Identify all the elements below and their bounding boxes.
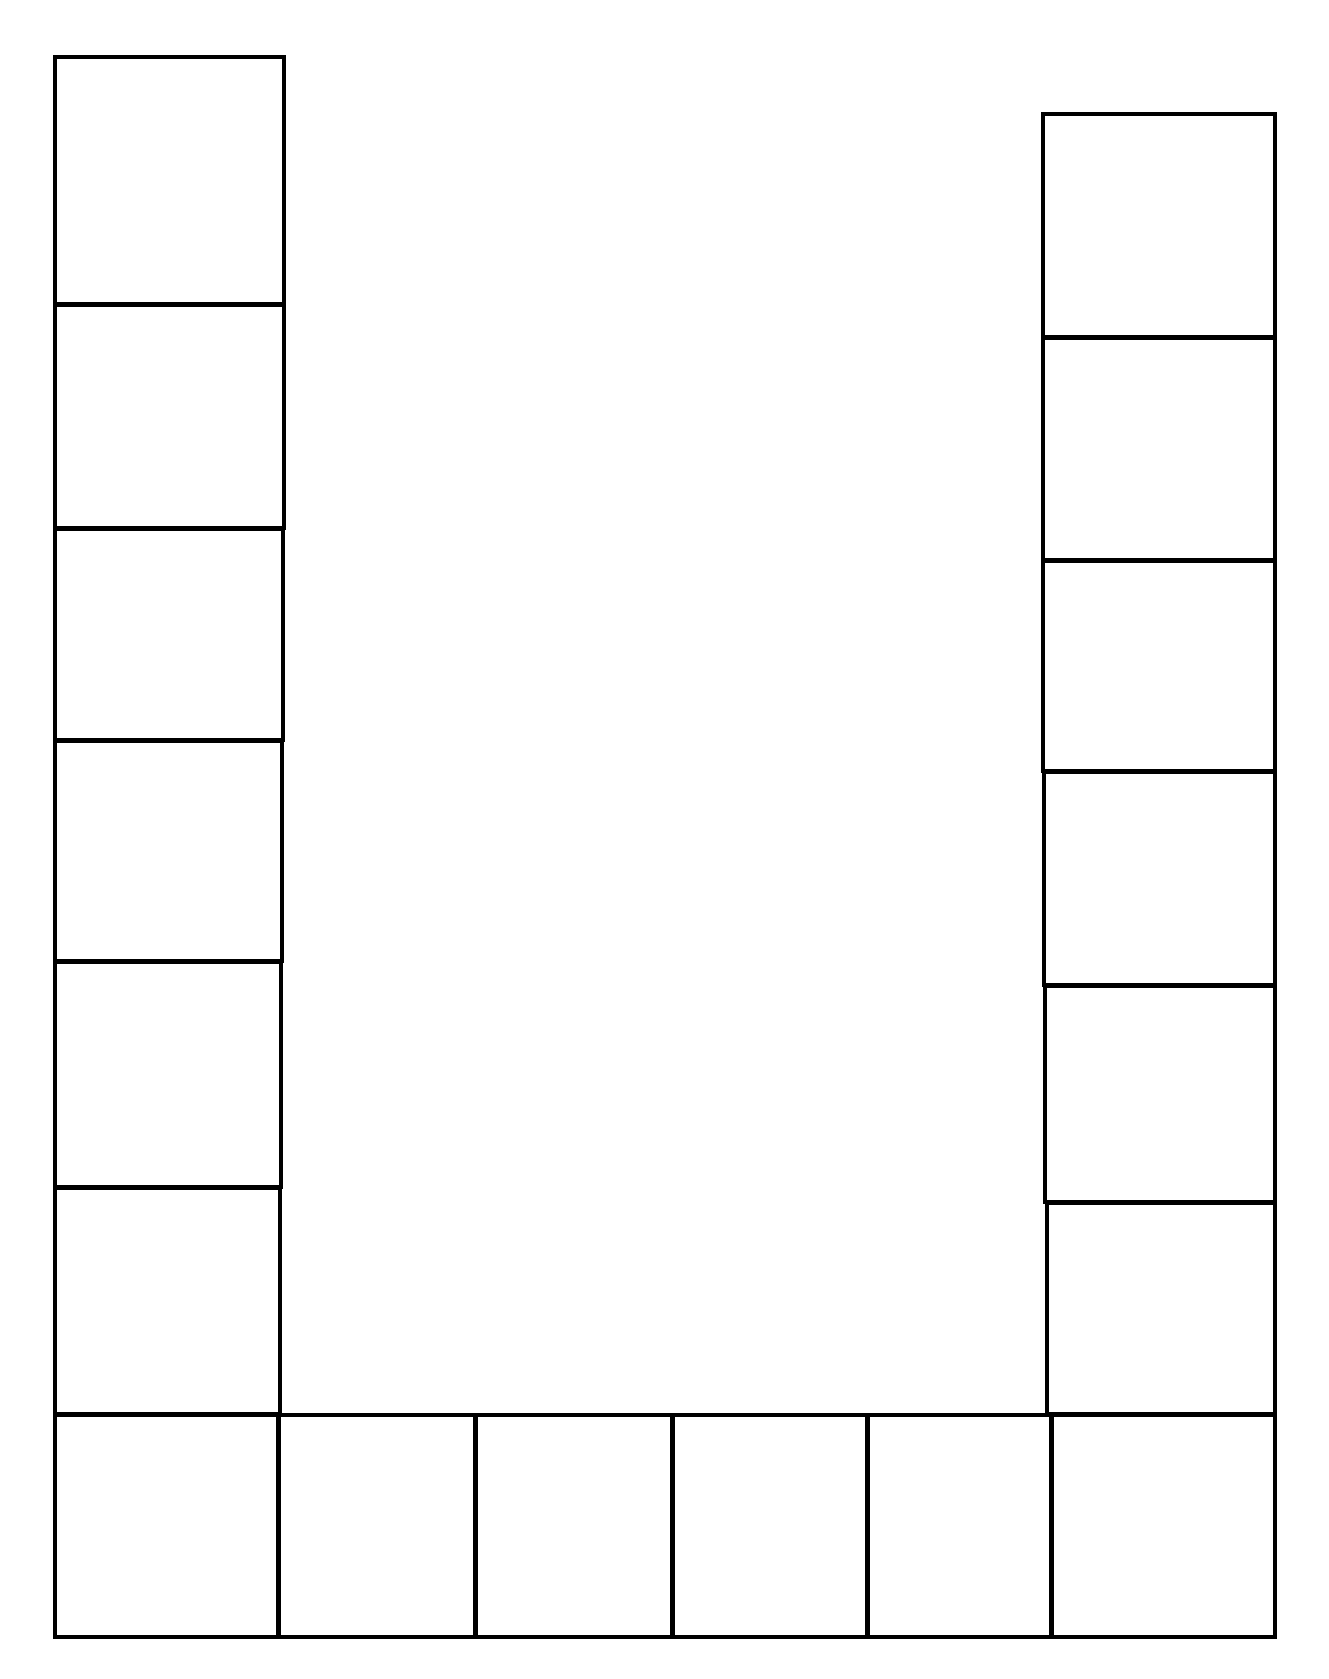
- left-column-square-4: [53, 739, 284, 963]
- left-column-square-1: [53, 55, 286, 306]
- left-column-square-5: [53, 960, 283, 1189]
- bottom-row-square-3: [474, 1413, 674, 1639]
- left-column-square-2: [53, 303, 286, 530]
- bottom-row-square-6: [1050, 1413, 1277, 1639]
- left-column-square-3: [53, 527, 285, 742]
- bottom-row-square-5: [866, 1413, 1053, 1639]
- bottom-row-square-2: [277, 1413, 477, 1639]
- bottom-row-square-4: [671, 1413, 869, 1639]
- right-column-square-2: [1041, 336, 1277, 562]
- right-column-square-4: [1042, 770, 1277, 987]
- right-column-square-3: [1041, 559, 1277, 773]
- right-column-square-6: [1045, 1201, 1277, 1416]
- right-column-square-5: [1043, 984, 1277, 1204]
- left-column-square-6: [53, 1186, 282, 1416]
- right-column-square-1: [1041, 112, 1277, 339]
- bottom-row-square-1: [53, 1413, 280, 1639]
